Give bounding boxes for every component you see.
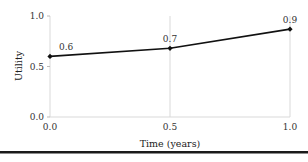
data-label: 0.9 (283, 15, 298, 25)
grid-lines (50, 16, 290, 117)
data-series: 0.60.70.9 (47, 15, 297, 59)
x-tick-label: 0.5 (163, 122, 178, 132)
y-tick-label: 0.5 (30, 62, 45, 72)
data-point (287, 27, 292, 32)
data-label: 0.7 (163, 34, 178, 44)
y-tick-label: 0.0 (30, 112, 45, 122)
x-axis-ticks: 0.00.51.0 (43, 122, 298, 132)
data-point (47, 54, 52, 59)
data-point (167, 46, 172, 51)
bottom-rule (0, 151, 308, 154)
utility-chart: 0.00.51.0 0.00.51.0 0.60.70.9 Time (year… (0, 0, 308, 162)
y-axis-title: Utility (13, 50, 24, 81)
y-tick-label: 1.0 (30, 11, 45, 21)
data-label: 0.6 (59, 42, 74, 52)
y-axis-ticks: 0.00.51.0 (30, 11, 50, 122)
x-tick-label: 0.0 (43, 122, 58, 132)
x-axis-title: Time (years) (140, 138, 201, 149)
x-tick-label: 1.0 (283, 122, 298, 132)
